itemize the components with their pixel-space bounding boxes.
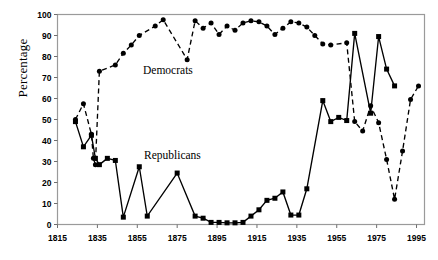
axes-layer: 0102030405060708090100181518351855187518… — [37, 10, 426, 243]
series-annotation-republicans: Republicans — [144, 149, 201, 161]
data-point-republicans — [97, 162, 102, 167]
data-point-republicans — [217, 220, 222, 225]
x-tick-label: 1955 — [327, 233, 346, 243]
data-point-democrats — [217, 32, 222, 37]
data-point-democrats — [121, 51, 126, 56]
data-point-democrats — [272, 32, 277, 37]
y-axis-label: Percentage — [15, 0, 31, 143]
data-point-republicans — [193, 214, 198, 219]
data-point-republicans — [384, 67, 389, 72]
data-point-democrats — [320, 41, 325, 46]
data-point-democrats — [193, 18, 198, 23]
data-point-republicans — [93, 156, 98, 161]
data-point-democrats — [416, 83, 421, 88]
x-tick-label: 1815 — [48, 233, 67, 243]
data-point-republicans — [280, 189, 285, 194]
series-layer — [73, 17, 421, 225]
data-point-democrats — [161, 17, 166, 22]
data-point-republicans — [73, 119, 78, 124]
data-point-democrats — [209, 20, 214, 25]
chart-plot-area: 0102030405060708090100181518351855187518… — [0, 0, 438, 260]
data-point-democrats — [400, 149, 405, 154]
data-point-democrats — [360, 129, 365, 134]
y-tick-label: 50 — [42, 115, 52, 125]
data-point-republicans — [105, 156, 110, 161]
data-point-republicans — [376, 34, 381, 39]
data-point-democrats — [97, 69, 102, 74]
data-point-republicans — [344, 118, 349, 123]
series-line-democrats — [75, 20, 418, 200]
data-point-republicans — [89, 133, 94, 138]
data-point-republicans — [328, 119, 333, 124]
data-point-democrats — [81, 101, 86, 106]
data-point-democrats — [153, 24, 158, 29]
y-tick-label: 70 — [42, 73, 52, 83]
data-point-democrats — [113, 62, 118, 67]
data-point-democrats — [288, 19, 293, 24]
data-point-democrats — [392, 197, 397, 202]
data-point-republicans — [209, 220, 214, 225]
data-point-democrats — [233, 28, 238, 33]
chart-figure: Percentage Democrats Republicans 0102030… — [0, 0, 438, 260]
data-point-democrats — [304, 25, 309, 30]
data-point-republicans — [201, 216, 206, 221]
data-point-republicans — [352, 31, 357, 36]
y-tick-label: 80 — [42, 52, 52, 62]
data-point-republicans — [392, 83, 397, 88]
y-tick-label: 60 — [42, 94, 52, 104]
data-point-democrats — [248, 18, 253, 23]
y-tick-label: 20 — [42, 178, 52, 188]
data-point-democrats — [264, 24, 269, 29]
x-tick-label: 1895 — [208, 233, 227, 243]
data-point-republicans — [296, 213, 301, 218]
data-point-democrats — [256, 19, 261, 24]
x-tick-label: 1995 — [407, 233, 426, 243]
x-tick-label: 1855 — [128, 233, 147, 243]
data-point-republicans — [121, 215, 126, 220]
x-tick-label: 1875 — [168, 233, 187, 243]
data-point-republicans — [256, 207, 261, 212]
data-point-republicans — [233, 220, 238, 225]
data-point-democrats — [352, 119, 357, 124]
data-point-republicans — [304, 186, 309, 191]
data-point-republicans — [288, 213, 293, 218]
data-point-republicans — [137, 164, 142, 169]
data-point-republicans — [81, 144, 86, 149]
data-point-democrats — [384, 157, 389, 162]
x-tick-label: 1915 — [247, 233, 266, 243]
x-tick-label: 1835 — [88, 233, 107, 243]
data-point-republicans — [264, 198, 269, 203]
data-point-republicans — [240, 220, 245, 225]
data-point-republicans — [225, 220, 230, 225]
series-annotation-democrats: Democrats — [143, 64, 193, 76]
data-point-republicans — [248, 214, 253, 219]
data-point-democrats — [129, 42, 134, 47]
data-point-republicans — [113, 158, 118, 163]
y-tick-label: 40 — [42, 136, 52, 146]
y-tick-label: 30 — [42, 157, 52, 167]
y-tick-label: 100 — [37, 10, 51, 20]
data-point-democrats — [225, 24, 230, 29]
data-point-democrats — [137, 33, 142, 38]
x-tick-label: 1975 — [367, 233, 386, 243]
data-point-democrats — [296, 20, 301, 25]
data-point-democrats — [312, 33, 317, 38]
x-tick-label: 1935 — [287, 233, 306, 243]
data-point-republicans — [336, 115, 341, 120]
data-point-republicans — [175, 171, 180, 176]
data-point-democrats — [328, 42, 333, 47]
series-line-republicans — [75, 33, 394, 222]
data-point-democrats — [280, 26, 285, 31]
data-point-democrats — [408, 97, 413, 102]
data-point-republicans — [272, 196, 277, 201]
data-point-democrats — [344, 40, 349, 45]
data-point-democrats — [185, 57, 190, 62]
y-tick-label: 10 — [42, 199, 52, 209]
data-point-republicans — [145, 214, 150, 219]
y-tick-label: 90 — [42, 31, 52, 41]
data-point-democrats — [201, 26, 206, 31]
data-point-democrats — [240, 20, 245, 25]
y-tick-label: 0 — [47, 220, 52, 230]
data-point-democrats — [376, 120, 381, 125]
data-point-republicans — [368, 111, 373, 116]
